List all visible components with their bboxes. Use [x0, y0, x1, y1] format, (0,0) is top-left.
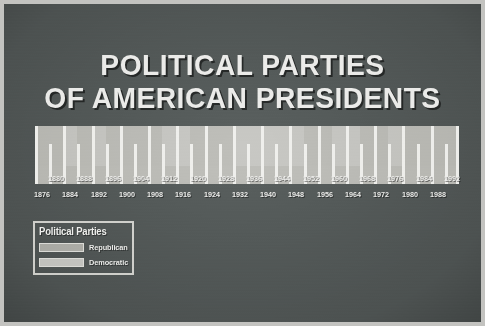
axis-year-label: 1984	[416, 172, 432, 185]
chart-legend: Political Parties Republican Democratic	[33, 221, 134, 275]
axis-year-label: 1888	[76, 172, 92, 185]
axis-year-label: 1960	[331, 172, 347, 185]
axis-year-label: 1876	[34, 188, 50, 201]
axis-year-label: 1908	[147, 188, 163, 201]
axis-year-label: 1944	[274, 172, 290, 185]
axis-year-label: 1968	[359, 172, 375, 185]
axis-year-label: 1896	[105, 172, 121, 185]
title-line-1: POLITICAL PARTIES	[18, 48, 466, 81]
axis-year-label: 1912	[161, 172, 177, 185]
axis-year-label: 1980	[402, 188, 418, 201]
axis-year-label: 1976	[387, 172, 403, 185]
axis-year-label: 1904	[133, 172, 149, 185]
axis-year-label: 1900	[119, 188, 135, 201]
axis-year-label: 1952	[303, 172, 319, 185]
legend-swatch-democratic	[39, 258, 84, 267]
axis-year-label: 1940	[260, 188, 276, 201]
axis-year-label: 1880	[48, 172, 64, 185]
axis-years-upper: 1880188818961904191219201928193619441952…	[35, 172, 459, 185]
axis-year-label: 1956	[317, 188, 333, 201]
axis-year-label: 1928	[218, 172, 234, 185]
axis-year-label: 1884	[62, 188, 78, 201]
title-line-2: OF AMERICAN PRESIDENTS	[18, 81, 466, 114]
legend-label-democratic: Democratic	[89, 258, 128, 268]
page-title: POLITICAL PARTIES OF AMERICAN PRESIDENTS	[4, 48, 481, 114]
axis-year-label: 1972	[373, 188, 389, 201]
axis-year-label: 1916	[175, 188, 191, 201]
axis-year-label: 1924	[204, 188, 220, 201]
axis-years-lower: 1876188418921900190819161924193219401948…	[35, 188, 459, 201]
poster-canvas: POLITICAL PARTIES OF AMERICAN PRESIDENTS…	[0, 0, 485, 326]
legend-label-republican: Republican	[89, 243, 128, 253]
axis-year-label: 1988	[430, 188, 446, 201]
legend-item-democratic: Democratic	[39, 256, 128, 269]
axis-year-label: 1964	[345, 188, 361, 201]
legend-swatch-republican	[39, 243, 84, 252]
axis-year-label: 1920	[190, 172, 206, 185]
legend-item-republican: Republican	[39, 241, 128, 254]
axis-year-label: 1948	[288, 188, 304, 201]
axis-year-label: 1936	[246, 172, 262, 185]
axis-year-label: 1892	[91, 188, 107, 201]
axis-year-label: 1932	[232, 188, 248, 201]
legend-title: Political Parties	[39, 226, 124, 238]
axis-year-label: 1992	[444, 172, 460, 185]
